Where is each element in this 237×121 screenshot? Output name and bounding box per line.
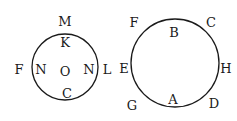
label-L: L xyxy=(103,62,112,77)
label-D: D xyxy=(209,96,219,111)
label-N-right: N xyxy=(83,62,94,77)
label-H: H xyxy=(220,61,231,76)
label-A: A xyxy=(167,92,178,107)
label-B: B xyxy=(169,25,179,40)
label-G: G xyxy=(127,98,137,113)
label-K: K xyxy=(60,35,70,50)
label-M: M xyxy=(58,14,71,29)
label-F-left: F xyxy=(14,62,23,77)
left-circle-group: M K F N O N L C xyxy=(14,14,111,101)
label-C-right: C xyxy=(206,15,216,30)
label-F-right: F xyxy=(129,15,138,30)
label-N-left: N xyxy=(35,62,46,77)
diagram-canvas: M K F N O N L C B F C E H A G D xyxy=(0,0,237,121)
label-E: E xyxy=(119,61,129,76)
label-C-left: C xyxy=(62,86,72,101)
label-O: O xyxy=(60,64,71,79)
right-circle-group: B F C E H A G D xyxy=(119,15,231,113)
